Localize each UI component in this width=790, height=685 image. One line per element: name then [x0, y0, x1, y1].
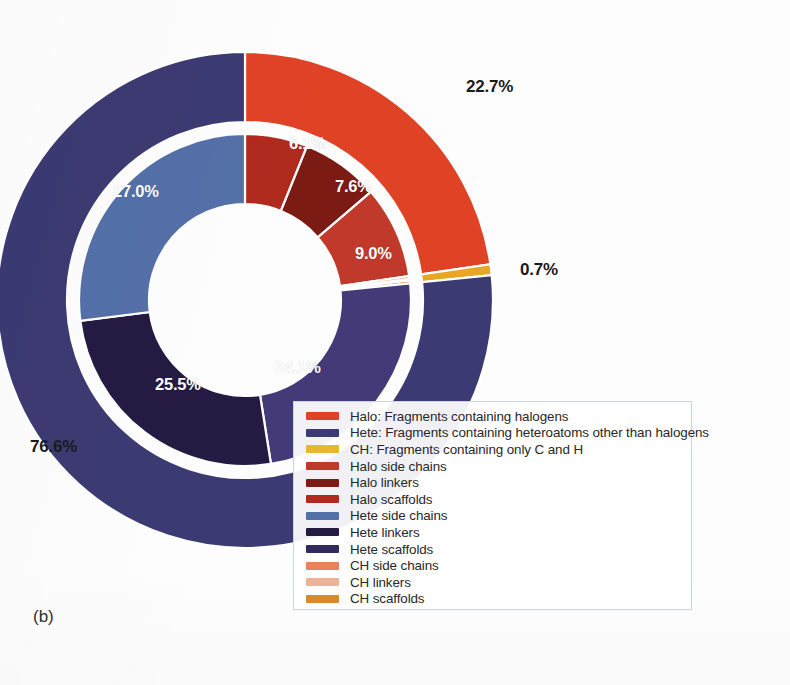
- legend-color-swatch: [306, 495, 339, 503]
- legend-item: Halo linkers: [302, 474, 683, 491]
- legend-item: Halo side chains: [302, 458, 683, 475]
- legend-item: Halo: Fragments containing halogens: [302, 408, 683, 425]
- legend-color-swatch: [306, 512, 339, 520]
- legend-item-label: CH: Fragments containing only C and H: [350, 442, 583, 457]
- legend-color-swatch: [306, 578, 339, 586]
- legend-item: CH: Fragments containing only C and H: [302, 441, 683, 458]
- legend-item: CH scaffolds: [302, 591, 683, 608]
- legend-item: Halo scaffolds: [302, 491, 683, 508]
- legend-color-swatch: [306, 462, 339, 470]
- legend-item-label: Halo: Fragments containing halogens: [350, 409, 568, 424]
- legend-item: CH linkers: [302, 574, 683, 591]
- legend-item-label: Halo scaffolds: [350, 492, 432, 507]
- legend-rows: Halo: Fragments containing halogensHete:…: [302, 408, 683, 607]
- legend-item-label: Hete linkers: [350, 525, 420, 540]
- legend-color-swatch: [306, 412, 339, 420]
- legend-item-label: CH scaffolds: [350, 591, 424, 606]
- legend-color-swatch: [306, 479, 339, 487]
- legend-item-label: CH side chains: [350, 558, 439, 573]
- legend-item: CH side chains: [302, 557, 683, 574]
- legend-color-swatch: [306, 528, 339, 536]
- legend-color-swatch: [306, 562, 339, 570]
- legend-color-swatch: [306, 545, 339, 553]
- legend-item: Hete side chains: [302, 508, 683, 525]
- legend-item-label: Hete side chains: [350, 508, 447, 523]
- legend-item: Hete scaffolds: [302, 541, 683, 558]
- legend-color-swatch: [306, 445, 339, 453]
- legend-item-label: Halo linkers: [350, 475, 419, 490]
- panel-tag: (b): [33, 607, 54, 627]
- legend-item-label: Halo side chains: [350, 459, 447, 474]
- legend-item: Hete linkers: [302, 524, 683, 541]
- legend-color-swatch: [306, 595, 339, 603]
- figure-panel: 22.7%0.7%76.6% 6.1%7.6%9.0%24.1%25.5%27.…: [0, 0, 790, 685]
- legend-item-label: CH linkers: [350, 575, 411, 590]
- legend-item-label: Hete scaffolds: [350, 542, 433, 557]
- chart-legend: Halo: Fragments containing halogensHete:…: [293, 401, 692, 610]
- legend-color-swatch: [306, 429, 339, 437]
- legend-item: Hete: Fragments containing heteroatoms o…: [302, 425, 683, 442]
- legend-item-label: Hete: Fragments containing heteroatoms o…: [350, 425, 709, 440]
